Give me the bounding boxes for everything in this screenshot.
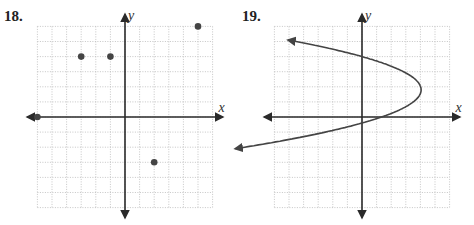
data-point bbox=[195, 23, 202, 30]
data-point bbox=[78, 53, 85, 60]
x-axis-label: x bbox=[455, 100, 463, 115]
x-axis-label: x bbox=[218, 100, 226, 115]
parabola-curve bbox=[235, 40, 421, 149]
graphs-canvas: xy xy bbox=[0, 0, 474, 225]
graph-18: xy bbox=[27, 8, 225, 217]
graph-19: xy bbox=[235, 8, 462, 217]
data-point bbox=[107, 53, 114, 60]
data-point bbox=[151, 159, 158, 166]
data-point bbox=[34, 114, 41, 121]
y-axis-label: y bbox=[363, 8, 372, 23]
y-axis-label: y bbox=[126, 8, 135, 23]
